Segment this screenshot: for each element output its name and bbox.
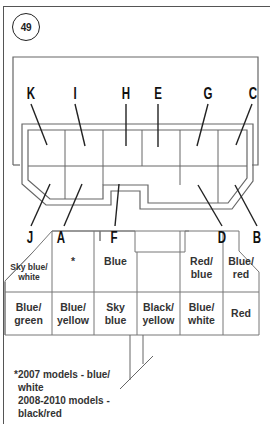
pin-label-J: J — [24, 229, 36, 247]
pin-label-G: G — [202, 85, 214, 103]
wire-cell-r2-c4: Black/ yellow — [137, 292, 180, 335]
wire-cell-r1-c5: Red/ blue — [180, 244, 223, 292]
footnote-line-4: black/red — [14, 407, 124, 420]
pin-label-C: C — [247, 85, 259, 103]
wire-cell-r1-c2: * — [52, 231, 94, 292]
pin-label-K: K — [25, 85, 37, 103]
wire-cell-r2-c5: Blue/ white — [180, 292, 223, 335]
wire-cell-r1-c3: Blue — [94, 231, 137, 292]
footnote: *2007 models - blue/ white 2008-2010 mod… — [14, 368, 124, 420]
wire-cell-r2-c2: Blue/ yellow — [52, 292, 94, 335]
footnote-line-3: 2008-2010 models - — [14, 394, 124, 407]
connector-diagram — [0, 0, 270, 424]
pin-label-H: H — [120, 85, 132, 103]
footnote-line-1: *2007 models - blue/ — [14, 368, 124, 381]
footnote-callout — [120, 335, 153, 389]
footnote-line-2: white — [14, 381, 124, 394]
wire-cell-r1-c6: Blue/ red — [223, 244, 259, 292]
wire-cell-r1-c1: Sky blue/ white — [6, 252, 52, 292]
wire-cell-r2-c1: Blue/ green — [5, 292, 52, 335]
pin-label-E: E — [152, 85, 164, 103]
wire-cell-r2-c3: Sky blue — [94, 292, 137, 335]
pin-grid — [28, 130, 247, 203]
pin-label-I: I — [69, 85, 81, 103]
wire-cell-r2-c6: Red — [223, 292, 259, 335]
connector-housing — [13, 57, 258, 165]
wire-cell-r1-c4 — [137, 252, 180, 292]
